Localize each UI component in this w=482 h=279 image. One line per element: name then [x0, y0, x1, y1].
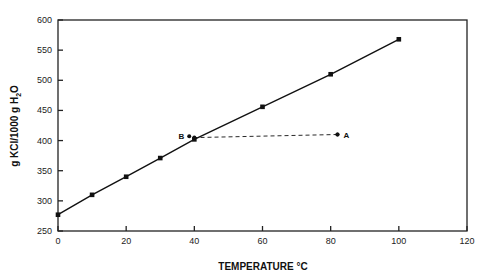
solubility-chart: 250300350400450500550600 020406080100120…	[0, 0, 482, 279]
x-tick-label: 20	[121, 236, 131, 246]
path-point-marker	[192, 136, 196, 140]
plot-frame	[58, 20, 467, 231]
point-a-marker	[335, 133, 339, 137]
plot-border	[58, 20, 467, 231]
x-tick-label: 80	[326, 236, 336, 246]
x-axis-title: TEMPERATURE °C	[218, 261, 307, 272]
y-tick-label: 500	[37, 75, 52, 85]
data-point-marker	[124, 174, 129, 179]
x-axis-ticks: 020406080100120	[55, 226, 474, 246]
point-b-label: B	[178, 132, 184, 141]
y-tick-label: 250	[37, 226, 52, 236]
y-tick-label: 400	[37, 136, 52, 146]
point-a-label: A	[343, 131, 349, 140]
point-b-marker	[187, 134, 191, 138]
data-point-marker	[260, 105, 265, 110]
y-tick-label: 450	[37, 105, 52, 115]
data-point-marker	[56, 212, 61, 217]
x-tick-label: 60	[257, 236, 267, 246]
data-point-marker	[397, 37, 402, 42]
x-tick-label: 0	[55, 236, 60, 246]
y-axis-ticks: 250300350400450500550600	[37, 15, 63, 236]
cooling-path-line	[194, 135, 337, 138]
solubility-curve-line	[58, 39, 399, 214]
x-tick-label: 100	[391, 236, 406, 246]
y-tick-label: 350	[37, 166, 52, 176]
y-axis-title: g KCl/1000 g H2O	[9, 85, 22, 167]
x-tick-label: 40	[189, 236, 199, 246]
x-tick-label: 120	[459, 236, 474, 246]
y-tick-label: 300	[37, 196, 52, 206]
data-point-marker	[90, 193, 95, 198]
data-series	[56, 37, 401, 217]
y-tick-label: 600	[37, 15, 52, 25]
data-point-marker	[328, 72, 333, 77]
data-point-marker	[158, 156, 163, 161]
y-tick-label: 550	[37, 45, 52, 55]
